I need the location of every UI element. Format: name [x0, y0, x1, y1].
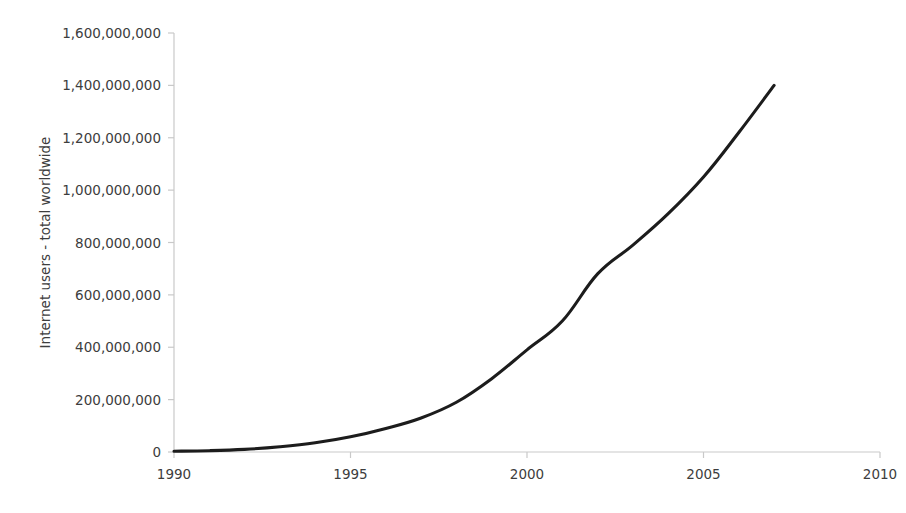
line-chart: 0200,000,000400,000,000600,000,000800,00…	[0, 0, 906, 513]
y-tick-label: 800,000,000	[75, 235, 161, 251]
x-tick-label: 1995	[333, 466, 367, 482]
y-tick-label: 400,000,000	[75, 339, 161, 355]
y-tick-label: 1,000,000,000	[62, 182, 161, 198]
x-axis-tick-labels: 19901995200020052010	[157, 466, 897, 482]
x-tick-label: 2000	[510, 466, 544, 482]
data-series-line	[174, 85, 774, 451]
y-tick-label: 1,200,000,000	[62, 130, 161, 146]
y-tick-label: 0	[152, 444, 161, 460]
x-tick-label: 2005	[686, 466, 720, 482]
y-tick-label: 600,000,000	[75, 287, 161, 303]
y-tick-label: 1,600,000,000	[62, 25, 161, 41]
x-axis-tick-marks	[174, 452, 880, 458]
x-tick-label: 1990	[157, 466, 191, 482]
y-tick-label: 200,000,000	[75, 392, 161, 408]
x-tick-label: 2010	[863, 466, 897, 482]
y-axis-title: Internet users - total worldwide	[37, 137, 53, 349]
chart-container: 0200,000,000400,000,000600,000,000800,00…	[0, 0, 906, 513]
y-axis-tick-labels: 0200,000,000400,000,000600,000,000800,00…	[62, 25, 161, 460]
y-tick-label: 1,400,000,000	[62, 77, 161, 93]
y-axis-tick-marks	[168, 33, 174, 452]
